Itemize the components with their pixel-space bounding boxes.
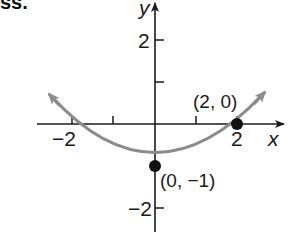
y-tick-label-2: 2 <box>138 29 150 52</box>
problem-number-label: ss. <box>0 0 28 13</box>
curve-left-arrow-icon <box>49 94 60 106</box>
x-tick-label-2: 2 <box>231 127 243 150</box>
parabola-graph: ss. y x −2 2 2 −2 (2, 0) (0, −1) <box>0 0 289 237</box>
x-axis-label: x <box>267 127 280 150</box>
y-axis-label: y <box>137 0 151 19</box>
point-label-2-0: (2, 0) <box>193 91 237 112</box>
y-tick-label-neg2: −2 <box>128 197 152 220</box>
curve-right-arrow-icon <box>254 92 265 104</box>
x-tick-label-neg2: −2 <box>52 127 76 150</box>
point-label-0-neg1: (0, −1) <box>160 170 215 191</box>
